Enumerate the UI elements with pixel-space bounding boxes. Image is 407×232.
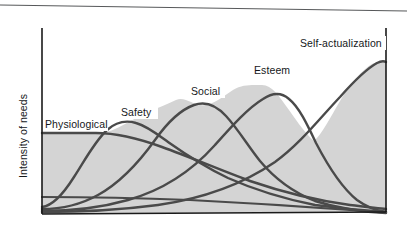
label-social: Social [191, 85, 220, 97]
scan-edge-line [0, 5, 407, 11]
label-physiological: Physiological [45, 118, 108, 130]
needs-intensity-chart: Intensity of needs Physiological Safety … [0, 0, 407, 232]
label-esteem: Esteem [254, 64, 290, 76]
label-self-actualization: Self-actualization [300, 37, 382, 49]
y-axis-label: Intensity of needs [17, 94, 29, 178]
figure-root: Intensity of needs Physiological Safety … [0, 0, 407, 232]
label-safety: Safety [121, 106, 152, 118]
